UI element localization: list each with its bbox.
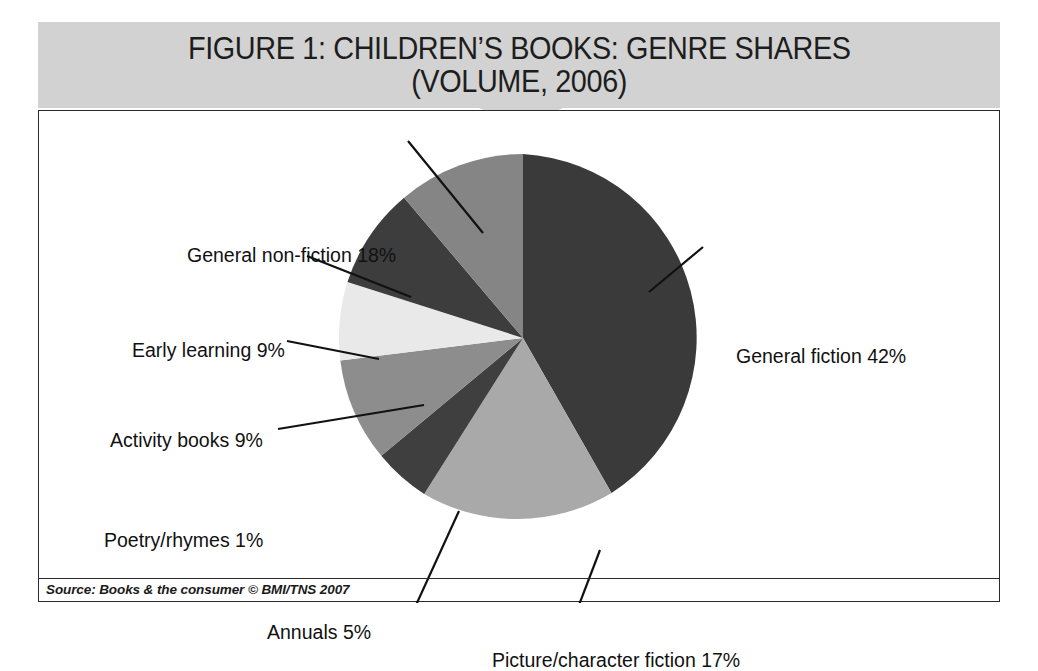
pie-label-early-learning: Early learning 9%	[132, 339, 285, 361]
pie-label-activity-books: Activity books 9%	[110, 429, 263, 451]
pie-label-picture-character-fiction: Picture/character fiction 17%	[492, 649, 740, 671]
pie-slice-early-learning	[347, 198, 523, 338]
pie-label-poetry-rhymes: Poetry/rhymes 1%	[104, 529, 263, 551]
source-divider	[39, 578, 999, 579]
pie-slice-general-non-fiction	[404, 154, 523, 338]
figure-title-line-1: FIGURE 1: CHILDREN’S BOOKS: GENRE SHARES	[188, 32, 851, 65]
leader-line-general-non-fiction	[408, 141, 483, 233]
pie-leader-lines	[278, 141, 703, 603]
pie-slice-general-fiction	[523, 154, 697, 493]
source-note: Source: Books & the consumer © BMI/TNS 2…	[46, 582, 349, 597]
pie-slice-annuals	[381, 338, 523, 494]
leader-line-poetry-rhymes	[278, 405, 424, 429]
pie-slice-poetry-rhymes	[340, 338, 523, 456]
chart-frame: General non-fiction 18% Early learning 9…	[38, 110, 1000, 602]
figure-title-banner: FIGURE 1: CHILDREN’S BOOKS: GENRE SHARES…	[38, 22, 1000, 108]
pie-slice-activity-books	[339, 282, 523, 360]
leader-line-annuals	[411, 511, 459, 603]
leader-line-activity-books	[287, 341, 379, 359]
pie-label-annuals: Annuals 5%	[267, 621, 371, 643]
pie-slice-picture-character-fiction	[424, 338, 611, 519]
pie-slices	[339, 154, 697, 519]
figure-title-line-2: (VOLUME, 2006)	[411, 65, 627, 98]
pie-label-general-non-fiction: General non-fiction 18%	[187, 244, 396, 266]
leader-line-picture-character-fiction	[566, 550, 600, 603]
leader-line-general-fiction	[649, 247, 703, 292]
pie-label-general-fiction: General fiction 42%	[736, 345, 906, 367]
